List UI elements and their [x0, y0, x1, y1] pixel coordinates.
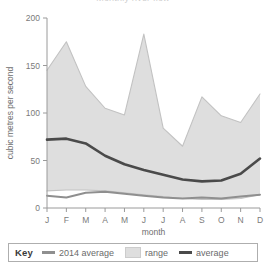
- y-tick-label-100: 100: [26, 108, 40, 118]
- range-band-area: [47, 34, 260, 199]
- x-tick-label-1: F: [64, 215, 69, 225]
- x-tick-label-2: M: [82, 215, 89, 225]
- legend-item-range: range: [125, 247, 168, 258]
- plot-area: 050100150200JFMAMJJASONDmonthcubic metre…: [0, 10, 266, 235]
- legend-label-average: average: [196, 248, 229, 258]
- chart-page: Monthly river flow 050100150200JFMAMJJAS…: [0, 0, 266, 267]
- chart-legend: Key 2014 average range average: [8, 243, 258, 262]
- x-tick-label-3: A: [102, 215, 108, 225]
- legend-swatch-average-line: [179, 251, 192, 254]
- x-tick-label-0: J: [45, 215, 49, 225]
- x-tick-label-8: S: [199, 215, 205, 225]
- legend-swatch-2014-average-line: [42, 251, 55, 254]
- legend-swatch-range-area: [125, 247, 141, 258]
- y-tick-label-200: 200: [26, 13, 40, 23]
- flow-chart-svg: 050100150200JFMAMJJASONDmonthcubic metre…: [0, 10, 266, 235]
- x-tick-label-11: D: [257, 215, 263, 225]
- legend-key-label: Key: [15, 247, 33, 258]
- x-tick-label-6: J: [161, 215, 165, 225]
- y-tick-label-0: 0: [35, 203, 40, 213]
- legend-item-2014-average: 2014 average: [42, 248, 114, 258]
- legend-item-average: average: [179, 248, 229, 258]
- x-axis-title: month: [142, 227, 166, 235]
- x-tick-label-5: J: [142, 215, 146, 225]
- x-tick-label-10: N: [238, 215, 244, 225]
- x-tick-label-7: A: [180, 215, 186, 225]
- x-tick-label-9: O: [218, 215, 225, 225]
- legend-label-2014-average: 2014 average: [59, 248, 114, 258]
- chart-title: Monthly river flow: [0, 0, 266, 3]
- y-tick-label-150: 150: [26, 61, 40, 71]
- x-tick-label-4: M: [121, 215, 128, 225]
- legend-label-range: range: [145, 248, 168, 258]
- y-tick-label-50: 50: [31, 156, 41, 166]
- y-axis-title: cubic metres per second: [5, 66, 15, 159]
